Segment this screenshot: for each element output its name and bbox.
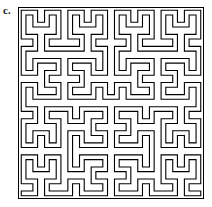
hilbert-curve-panel bbox=[18, 7, 204, 199]
figure-root: c. bbox=[0, 0, 212, 207]
hilbert-curve-svg bbox=[18, 7, 204, 199]
figure-label: c. bbox=[3, 5, 11, 16]
